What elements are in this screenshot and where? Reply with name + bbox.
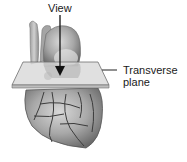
view-label: View xyxy=(48,3,72,14)
plane-label-line1: Transverse xyxy=(123,64,178,76)
plane-label-line2: plane xyxy=(123,76,178,88)
transverse-plane-label: Transverse plane xyxy=(123,64,178,88)
heart-transverse-plane-diagram: View Transverse plane xyxy=(0,0,187,162)
heart-ventricles xyxy=(25,88,103,148)
